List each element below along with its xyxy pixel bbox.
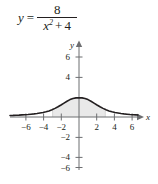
fraction-denominator: x2+4 [40, 18, 74, 32]
equation-expression: y = 8 x2+4 [18, 3, 77, 32]
equation-block: y = 8 x2+4 [0, 0, 158, 40]
figure-container: y = 8 x2+4 [0, 0, 158, 184]
y-tick-label-4: 4 [66, 72, 71, 82]
x-tick-label--6: −6 [21, 122, 31, 132]
y-tick-label--6: −6 [60, 163, 70, 173]
x-tick-label--2: −2 [57, 122, 67, 132]
denominator-constant: 4 [64, 18, 71, 33]
graph-plot: −6 −4 −2 2 4 6 6 4 −2 −4 −6 x y [0, 38, 158, 184]
fraction-numerator: 8 [50, 3, 65, 17]
x-tick-label-4: 4 [112, 122, 117, 132]
y-tick-label--2: −2 [60, 132, 70, 142]
x-tick-label-2: 2 [94, 122, 99, 132]
equals-sign: = [26, 11, 37, 24]
y-axis-label: y [69, 40, 74, 50]
coordinate-plane-svg: −6 −4 −2 2 4 6 6 4 −2 −4 −6 x y [0, 38, 158, 184]
x-tick-label--4: −4 [39, 122, 49, 132]
y-tick-label-6: 6 [66, 52, 71, 62]
x-tick-label-6: 6 [130, 122, 135, 132]
y-axis-arrow-icon [76, 41, 82, 48]
x-axis-label: x [145, 112, 150, 122]
fraction: 8 x2+4 [37, 3, 77, 32]
denominator-operator: + [53, 18, 64, 33]
y-tick-label--4: −4 [60, 152, 70, 162]
equation-left-side: y [18, 11, 26, 24]
